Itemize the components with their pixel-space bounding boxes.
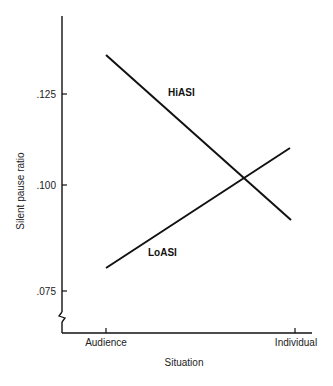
axis-break-icon (59, 312, 65, 322)
y-axis-title: Silent pause ratio (15, 152, 26, 230)
line-chart: .125 .100 .075 Audience Individual Situa… (0, 0, 333, 386)
x-axis-title: Situation (165, 357, 204, 368)
y-tick-label-075: .075 (37, 286, 57, 297)
y-tick-label-125: .125 (37, 89, 57, 100)
series-label-hiasi: HiASI (168, 87, 195, 98)
x-tick-label-audience: Audience (85, 337, 127, 348)
y-tick-label-100: .100 (37, 180, 57, 191)
series-line-loasi (106, 148, 290, 268)
series-label-loasi: LoASI (148, 247, 177, 258)
x-tick-label-individual: Individual (275, 337, 317, 348)
series-line-hiasi (106, 55, 291, 220)
